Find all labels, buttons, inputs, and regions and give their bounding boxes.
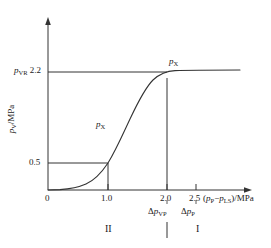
y-axis-title-sub: V xyxy=(10,124,17,129)
curve-label-lower: pX xyxy=(96,120,105,129)
delta-pp-label: ΔpP xyxy=(181,207,195,216)
plot-canvas xyxy=(0,0,271,248)
x-tick-label-twofive: 2.5 xyxy=(189,194,200,203)
region-label-two: II xyxy=(105,224,112,234)
y-axis-title-wrapper: pV/MPa xyxy=(4,88,18,150)
x-tick-label-two: 2.0 xyxy=(160,194,171,203)
delta-pvp-label: ΔpVP xyxy=(148,207,167,216)
curve-label-upper-symbol: p xyxy=(169,56,174,66)
x-axis-title-close: )/MPa xyxy=(231,193,254,203)
x-axis-title-p1-sub: P xyxy=(211,197,215,204)
curve-label-lower-sub: X xyxy=(101,123,106,130)
region-label-one: I xyxy=(196,224,199,234)
y-tick-label-lower: 0.5 xyxy=(29,158,40,167)
x-tick-label-zero: 0 xyxy=(45,194,50,203)
x-axis-title-p2-sub: LS xyxy=(224,197,232,204)
y-axis-title: pV/MPa xyxy=(7,105,16,134)
curve-px xyxy=(48,70,240,190)
curve-label-lower-symbol: p xyxy=(96,119,101,129)
x-axis-title-p1: p xyxy=(206,193,211,203)
x-tick-label-one: 1.0 xyxy=(101,194,112,203)
y-axis-marker-symbol: p xyxy=(14,65,19,75)
curve-label-upper: pX xyxy=(169,57,178,66)
y-axis-marker-label: pVR 2.2 xyxy=(14,66,41,75)
delta-pvp-sub: VP xyxy=(158,210,166,217)
y-axis-marker-value: 2.2 xyxy=(30,65,41,75)
x-axis-arrow xyxy=(244,187,252,193)
curve-label-upper-sub: X xyxy=(174,60,179,67)
y-axis-arrow xyxy=(45,17,51,25)
y-axis-title-unit: /MPa xyxy=(6,105,16,125)
y-axis-marker-sub: VR xyxy=(19,69,28,76)
delta-pp-sub: P xyxy=(191,210,195,217)
figure-container: pVR 2.2 0.5 pV/MPa 0 1.0 2.0 2.5 (pP−pLS… xyxy=(0,0,271,248)
y-axis-title-symbol: p xyxy=(6,129,16,134)
x-axis-title: (pP−pLS)/MPa xyxy=(203,194,254,203)
